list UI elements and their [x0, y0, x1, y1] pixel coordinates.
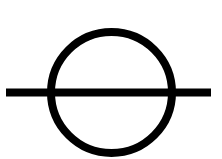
canvas-background — [0, 0, 222, 159]
symbol-canvas — [0, 0, 222, 159]
barred-circle-figure — [0, 0, 222, 159]
